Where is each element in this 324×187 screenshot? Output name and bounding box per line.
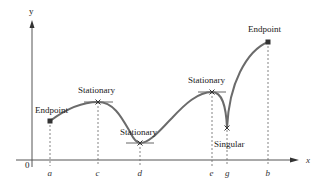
label-stationary-e: Stationary <box>188 75 225 85</box>
label-endpoint-a: Endpoint <box>35 105 68 115</box>
tick-g: g <box>225 168 230 178</box>
y-axis-label: y <box>29 6 34 16</box>
point-labels: Endpoint Stationary Stationary Stationar… <box>35 24 281 149</box>
critical-points-diagram: y x 0 Endpoint <box>0 0 324 187</box>
tick-b: b <box>266 168 271 178</box>
x-axis-label: x <box>305 155 310 165</box>
tick-c: c <box>96 168 100 178</box>
label-stationary-c: Stationary <box>78 85 115 95</box>
origin-label: 0 <box>25 160 30 170</box>
tick-labels: a c d e g b <box>48 168 271 178</box>
x-axis-arrow-icon <box>290 158 299 163</box>
label-endpoint-b: Endpoint <box>248 24 281 34</box>
label-singular-g: Singular <box>214 139 245 149</box>
label-stationary-d: Stationary <box>120 127 157 137</box>
tick-a: a <box>48 168 53 178</box>
y-axis-arrow-icon <box>30 20 35 28</box>
tick-e: e <box>210 168 214 178</box>
tick-d: d <box>138 168 143 178</box>
endpoint-square-icon-b <box>266 40 271 45</box>
endpoint-square-icon-a <box>48 119 53 124</box>
